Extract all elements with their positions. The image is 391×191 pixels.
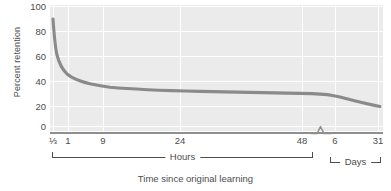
y-tick-label: 0 — [24, 122, 46, 132]
x-tick-label: 6 — [332, 136, 337, 146]
y-axis-title: Percent retention — [12, 7, 22, 117]
x-axis-title: Time since original learning — [0, 173, 391, 184]
x-tick-label: 24 — [175, 136, 186, 146]
forgetting-curve-chart: Percent retention 100 80 60 40 20 0 ⅓ 1 … — [0, 0, 391, 191]
plot-area — [50, 5, 383, 131]
x-tick-label-one-third: ⅓ — [49, 136, 57, 146]
fraction-one-third: ⅓ — [49, 136, 57, 146]
y-tick-label: 100 — [24, 2, 46, 12]
x-tick-label: 1 — [65, 136, 70, 146]
bracket-cap-right — [312, 152, 313, 158]
hours-bracket: Hours — [52, 152, 313, 161]
x-axis-line — [50, 132, 383, 134]
retention-curve — [50, 5, 383, 131]
bracket-cap-right — [380, 157, 381, 163]
x-tick-label: 9 — [100, 136, 105, 146]
y-axis-tick-group: 100 80 60 40 20 0 — [22, 0, 46, 140]
y-tick-label: 20 — [24, 102, 46, 112]
y-tick-label: 40 — [24, 77, 46, 87]
y-tick-label: 80 — [24, 27, 46, 37]
days-bracket: Days — [330, 157, 381, 166]
y-tick-label: 60 — [24, 52, 46, 62]
x-tick-label: 31 — [373, 136, 384, 146]
hours-bracket-label: Hours — [165, 151, 200, 162]
days-bracket-label: Days — [340, 156, 372, 167]
x-tick-label: 48 — [297, 136, 308, 146]
axis-break-icon — [311, 125, 331, 135]
